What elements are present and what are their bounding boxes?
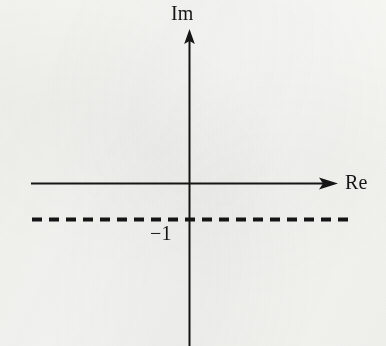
- imaginary-axis-label: Im: [171, 3, 194, 23]
- real-axis: [31, 178, 338, 190]
- real-axis-label: Re: [345, 172, 368, 192]
- imaginary-axis: [184, 29, 195, 346]
- tick-label-minus-one: −1: [150, 223, 172, 243]
- figure-canvas: [0, 0, 386, 346]
- figure-label-fragment: ): [0, 2, 1, 29]
- complex-plane-figure: ) Im Re −1: [0, 0, 386, 346]
